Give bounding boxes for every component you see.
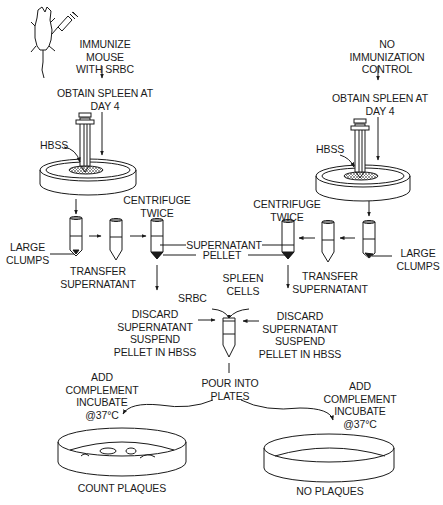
large-clumps-left-label: LARGE CLUMPS xyxy=(5,241,50,266)
plaque-plate-icon xyxy=(58,428,186,476)
test-tube-icon xyxy=(223,318,235,357)
test-tube-icon xyxy=(322,221,334,263)
centrifuge-left-label: CENTRIFUGE TWICE xyxy=(122,194,192,219)
hbss-left-label: HBSS xyxy=(40,139,68,152)
spleen-cells-label: SPLEEN CELLS xyxy=(218,272,268,297)
hbss-right-label: HBSS xyxy=(316,143,344,156)
add-complement-right-label: ADD COMPLEMENT INCUBATE @37°C xyxy=(320,380,400,430)
test-tube-icon xyxy=(282,220,294,260)
test-tube-icon xyxy=(110,219,122,261)
no-immunization-label: NO IMMUNIZATION CONTROL xyxy=(342,38,432,76)
immunize-label: IMMUNIZE MOUSE WITH SRBC xyxy=(60,38,150,76)
pellet-label: PELLET xyxy=(196,249,248,262)
test-tube-icon xyxy=(363,221,375,259)
syringe-icon xyxy=(52,12,78,34)
centrifuge-right-label: CENTRIFUGE TWICE xyxy=(252,198,322,223)
count-plaques-label: COUNT PLAQUES xyxy=(72,482,172,495)
no-plaques-label: NO PLAQUES xyxy=(285,485,375,498)
add-complement-left-label: ADD COMPLEMENT INCUBATE @37°C xyxy=(62,371,142,421)
test-tube-icon xyxy=(70,217,82,257)
transfer-supernatant-left-label: TRANSFER SUPERNATANT xyxy=(58,265,138,290)
discard-left-label: DISCARD SUPERNATANT SUSPEND PELLET IN HB… xyxy=(110,308,200,358)
obtain-spleen-right-label: OBTAIN SPLEEN AT DAY 4 xyxy=(330,92,430,117)
obtain-spleen-left-label: OBTAIN SPLEEN AT DAY 4 xyxy=(55,87,155,112)
srbc-label: SRBC xyxy=(178,292,207,305)
mouse-icon xyxy=(31,7,55,78)
transfer-supernatant-right-label: TRANSFER SUPERNATANT xyxy=(290,270,370,295)
protocol-diagram: IMMUNIZE MOUSE WITH SRBC OBTAIN SPLEEN A… xyxy=(0,0,443,505)
discard-right-label: DISCARD SUPERNATANT SUSPEND PELLET IN HB… xyxy=(255,310,345,360)
pour-into-plates-label: POUR INTO PLATES xyxy=(195,377,265,402)
empty-plate-icon xyxy=(264,434,394,482)
test-tube-icon xyxy=(151,219,163,260)
large-clumps-right-label: LARGE CLUMPS xyxy=(393,247,443,272)
